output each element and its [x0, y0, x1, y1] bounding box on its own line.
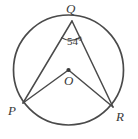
- segment-OR: [69, 70, 114, 107]
- center-point-dot: [66, 68, 70, 72]
- segment-QP: [23, 21, 72, 103]
- segment-OP: [23, 70, 69, 103]
- segment-QR: [72, 21, 113, 107]
- vertex-label-P: P: [8, 104, 16, 117]
- geometry-figure: Q P R O 54°: [0, 0, 138, 139]
- vertex-label-Q: Q: [66, 2, 75, 15]
- vertex-label-R: R: [116, 110, 124, 123]
- angle-measure-label: 54°: [67, 36, 82, 47]
- vertex-label-O: O: [64, 74, 73, 87]
